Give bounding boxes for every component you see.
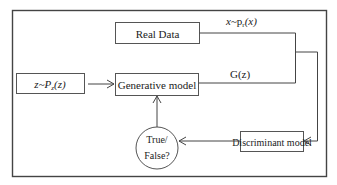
real-data-node: Real Data	[116, 23, 200, 44]
merge-connector	[199, 33, 318, 145]
discriminator-node: Discriminant model	[232, 132, 312, 152]
gan-diagram: Real Data x~pr(x) z~Pz(z) Generative mod…	[0, 0, 337, 185]
discriminator-to-decision-arrow	[179, 137, 240, 145]
discriminator-label: Discriminant model	[232, 137, 312, 148]
generator-node: Generative model	[116, 74, 199, 96]
decision-line1: True/	[146, 134, 168, 145]
noise-to-generator-arrow	[88, 80, 114, 88]
generated-sample-label: G(z)	[230, 68, 250, 81]
noise-label: z~Pz(z)	[33, 78, 66, 92]
noise-node: z~Pz(z)	[17, 74, 85, 94]
decision-line2: False?	[144, 150, 170, 161]
decision-node: True/ False?	[136, 127, 178, 169]
real-data-label: Real Data	[136, 28, 180, 40]
decision-to-generator-arrow	[153, 96, 161, 127]
generator-label: Generative model	[118, 79, 197, 91]
real-sample-label: x~pr(x)	[225, 15, 257, 29]
